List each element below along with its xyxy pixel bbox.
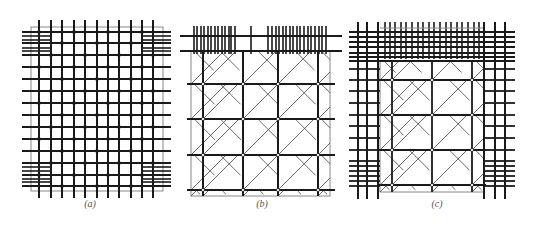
node-joint bbox=[276, 82, 279, 85]
diagonal-brace bbox=[223, 191, 226, 194]
panel-c-framed-diagonal-grid bbox=[349, 22, 515, 199]
node-joint bbox=[140, 65, 143, 68]
diagonal-brace bbox=[410, 116, 429, 135]
node-joint bbox=[390, 78, 393, 81]
diagonal-brace bbox=[278, 51, 311, 84]
diagonal-brace bbox=[450, 81, 469, 100]
node-joint bbox=[37, 30, 40, 33]
node-joint bbox=[49, 161, 52, 164]
node-joint bbox=[470, 148, 473, 151]
node-joint bbox=[60, 184, 63, 187]
node-joint bbox=[37, 65, 40, 68]
node-joint bbox=[83, 125, 86, 128]
node-joint bbox=[316, 153, 319, 156]
node-joint bbox=[72, 65, 75, 68]
diagonal-brace bbox=[221, 52, 239, 70]
diagonal-brace bbox=[278, 119, 314, 155]
node-joint bbox=[241, 82, 244, 85]
diagonal-brace bbox=[384, 81, 403, 100]
diagonal-brace bbox=[296, 156, 315, 175]
diagonal-brace bbox=[259, 156, 278, 175]
diagonal-brace bbox=[432, 115, 467, 150]
node-joint bbox=[106, 30, 109, 33]
diagonal-brace bbox=[259, 52, 277, 70]
node-joint bbox=[95, 113, 98, 116]
diagonal-brace bbox=[392, 61, 411, 80]
node-joint bbox=[95, 77, 98, 80]
node-joint bbox=[37, 173, 40, 176]
node-joint bbox=[106, 101, 109, 104]
node-joint bbox=[430, 183, 433, 186]
diagonal-brace bbox=[380, 61, 399, 80]
caption-c: (c) bbox=[431, 198, 442, 209]
diagonal-brace bbox=[221, 85, 240, 104]
diagonal-brace bbox=[203, 119, 239, 155]
diagonal-brace bbox=[324, 191, 327, 194]
diagonal-brace bbox=[452, 186, 456, 190]
node-joint bbox=[129, 149, 132, 152]
diagonal-brace bbox=[195, 85, 214, 104]
diagonal-brace bbox=[384, 116, 403, 135]
diagonal-brace bbox=[451, 62, 461, 72]
diagonal-brace bbox=[450, 116, 469, 135]
node-joint bbox=[106, 137, 109, 140]
node-joint bbox=[95, 149, 98, 152]
node-joint bbox=[470, 113, 473, 116]
caption-a: (a) bbox=[84, 198, 96, 209]
diagonal-brace bbox=[472, 150, 507, 185]
diagonal-brace bbox=[472, 61, 491, 80]
node-joint bbox=[470, 183, 473, 186]
node-joint bbox=[72, 137, 75, 140]
node-joint bbox=[72, 30, 75, 33]
caption-b: (b) bbox=[256, 198, 268, 209]
node-joint bbox=[241, 188, 244, 191]
diagonal-brace bbox=[296, 85, 315, 104]
diagonal-brace bbox=[432, 80, 467, 115]
node-joint bbox=[129, 77, 132, 80]
diagonal-brace bbox=[243, 119, 279, 155]
diagonal-brace bbox=[243, 155, 278, 190]
diagonal-brace bbox=[478, 186, 482, 190]
diagonal-brace bbox=[243, 51, 276, 84]
node-joint bbox=[129, 41, 132, 44]
node-joint bbox=[37, 101, 40, 104]
node-joint bbox=[129, 113, 132, 116]
diagonal-brace bbox=[195, 52, 213, 70]
diagonal-brace bbox=[322, 156, 341, 175]
node-joint bbox=[316, 82, 319, 85]
node-joint bbox=[276, 188, 279, 191]
node-joint bbox=[241, 117, 244, 120]
diagonal-brace bbox=[432, 61, 451, 80]
node-joint bbox=[201, 117, 204, 120]
diagonal-brace bbox=[298, 191, 301, 194]
node-joint bbox=[201, 188, 204, 191]
diagonal-brace bbox=[450, 151, 469, 170]
node-joint bbox=[83, 89, 86, 92]
node-joint bbox=[316, 188, 319, 191]
node-joint bbox=[60, 113, 63, 116]
node-joint bbox=[117, 89, 120, 92]
node-joint bbox=[201, 153, 204, 156]
diagonal-brace bbox=[322, 120, 342, 140]
node-joint bbox=[60, 149, 63, 152]
diagonal-brace bbox=[472, 80, 507, 115]
node-joint bbox=[140, 30, 143, 33]
node-joint bbox=[241, 153, 244, 156]
node-joint bbox=[151, 53, 154, 56]
diagonal-brace bbox=[278, 84, 313, 119]
diagonal-brace bbox=[296, 52, 314, 70]
diagonal-brace bbox=[243, 84, 278, 119]
diagonal-brace bbox=[221, 120, 241, 140]
diagonal-brace bbox=[318, 51, 351, 84]
node-joint bbox=[49, 125, 52, 128]
node-joint bbox=[430, 78, 433, 81]
node-joint bbox=[72, 173, 75, 176]
node-joint bbox=[117, 125, 120, 128]
node-joint bbox=[49, 53, 52, 56]
node-joint bbox=[140, 173, 143, 176]
node-joint bbox=[72, 101, 75, 104]
node-joint bbox=[316, 117, 319, 120]
node-joint bbox=[49, 89, 52, 92]
diagonal-brace bbox=[318, 119, 354, 155]
diagonal-brace bbox=[197, 191, 200, 194]
